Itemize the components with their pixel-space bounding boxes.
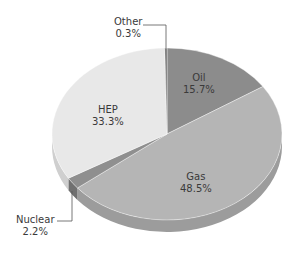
label-nuclear: Nuclear 2.2% — [16, 214, 55, 238]
nuclear-callout-line — [57, 191, 72, 221]
label-hep-pct: 33.3% — [92, 116, 124, 128]
label-hep: HEP 33.3% — [92, 104, 124, 128]
label-other-name: Other — [114, 16, 142, 28]
label-gas-name: Gas — [180, 171, 212, 183]
label-other-pct: 0.3% — [114, 28, 142, 40]
label-nuclear-name: Nuclear — [16, 214, 55, 226]
label-gas: Gas 48.5% — [180, 171, 212, 195]
other-callout-line — [143, 25, 166, 48]
label-gas-pct: 48.5% — [180, 183, 212, 195]
label-nuclear-pct: 2.2% — [16, 226, 55, 238]
label-oil: Oil 15.7% — [183, 72, 215, 96]
label-oil-name: Oil — [183, 72, 215, 84]
label-hep-name: HEP — [92, 104, 124, 116]
label-oil-pct: 15.7% — [183, 84, 215, 96]
label-other: Other 0.3% — [114, 16, 142, 40]
pie-slices — [52, 48, 282, 220]
